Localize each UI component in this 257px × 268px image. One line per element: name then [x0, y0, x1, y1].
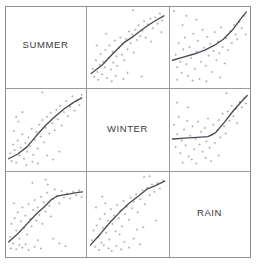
panel-label-rain: RAIN — [197, 207, 222, 218]
panel-label-winter: WINTER — [107, 123, 148, 134]
splom-canvas: SUMMERWINTERRAIN — [0, 0, 257, 268]
panel-label-summer: SUMMER — [23, 39, 69, 50]
scatterplot-matrix-figure: SUMMERWINTERRAIN — [0, 0, 257, 268]
